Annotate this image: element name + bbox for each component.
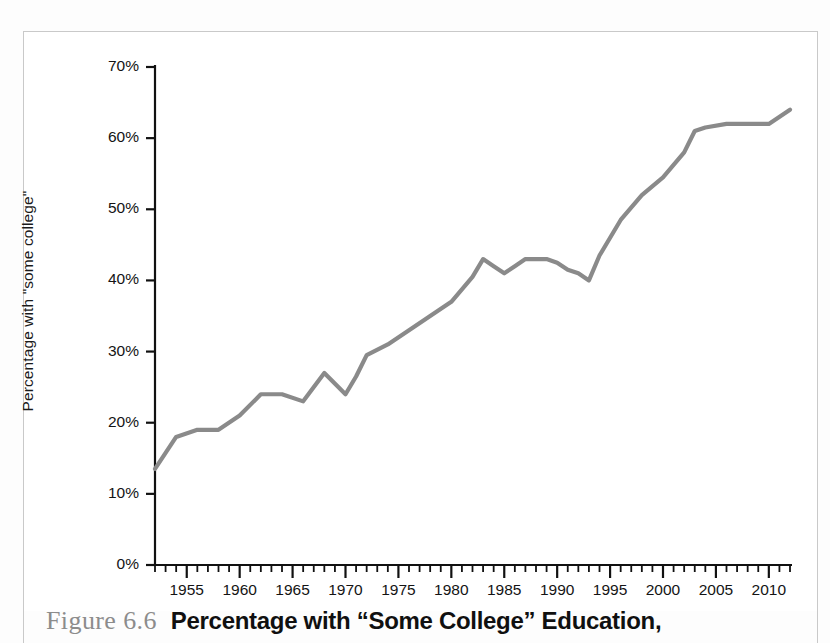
x-tick-label: 2010 <box>737 581 801 599</box>
data-series-line <box>155 110 790 469</box>
y-tick-label: 40% <box>77 270 139 288</box>
y-tick-label: 10% <box>77 484 139 502</box>
chart-tick-marks <box>146 67 790 578</box>
figure-container: 0%10%20%30%40%50%60%70% 1955196019651970… <box>0 0 830 643</box>
figure-number: Figure 6.6 <box>46 606 157 635</box>
chart-axes <box>155 65 792 565</box>
y-tick-label: 50% <box>77 199 139 217</box>
figure-caption-title: Percentage with “Some College” Education… <box>171 607 661 634</box>
y-tick-label: 20% <box>77 413 139 431</box>
line-chart <box>0 0 830 600</box>
y-axis-title: Percentage with "some college" <box>19 101 37 501</box>
figure-frame-left-edge <box>23 611 24 643</box>
y-axis-title-wrapper: Percentage with "some college" <box>0 0 1 1</box>
y-tick-label: 60% <box>77 128 139 146</box>
y-tick-label: 0% <box>77 555 139 573</box>
y-tick-label: 70% <box>77 57 139 75</box>
y-tick-label: 30% <box>77 342 139 360</box>
figure-frame-right-edge <box>817 611 818 643</box>
figure-caption: Figure 6.6 Percentage with “Some College… <box>46 600 661 641</box>
